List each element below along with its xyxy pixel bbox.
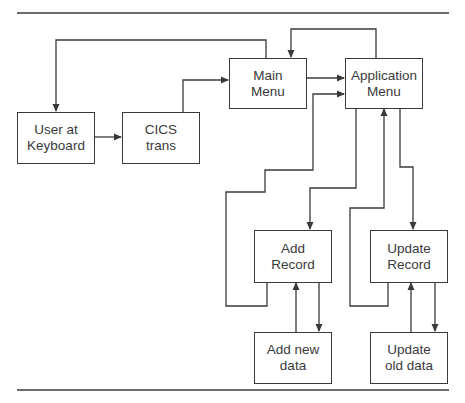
node-label: Record: [387, 257, 431, 273]
node-update-record: Update Record: [370, 230, 448, 283]
node-label: Menu: [367, 84, 401, 100]
node-label: User at: [34, 122, 78, 138]
node-main-menu: Main Menu: [229, 58, 307, 109]
node-label: trans: [146, 138, 176, 154]
node-add-new-data: Add new data: [254, 332, 332, 384]
edge-app-to-updrec: [400, 108, 413, 229]
node-label: old data: [385, 358, 433, 374]
node-user-at-keyboard: User at Keyboard: [17, 112, 95, 164]
node-label: Add: [281, 241, 305, 257]
node-label: Menu: [251, 84, 285, 100]
node-add-record: Add Record: [254, 230, 332, 283]
node-update-old-data: Update old data: [370, 332, 448, 384]
node-label: data: [280, 358, 306, 374]
node-label: Application: [351, 68, 417, 84]
node-label: CICS: [145, 122, 177, 138]
edge-cics-to-main: [183, 80, 228, 112]
node-application-menu: Application Menu: [345, 58, 423, 109]
node-label: Add new: [267, 342, 320, 358]
node-cics-trans: CICS trans: [122, 112, 200, 164]
node-label: Update: [387, 342, 431, 358]
edge-app-to-addrec: [310, 108, 356, 229]
edge-app-to-main: [291, 29, 376, 58]
node-label: Keyboard: [27, 138, 85, 154]
node-label: Update: [387, 241, 431, 257]
node-label: Main: [253, 68, 282, 84]
node-label: Record: [271, 257, 315, 273]
